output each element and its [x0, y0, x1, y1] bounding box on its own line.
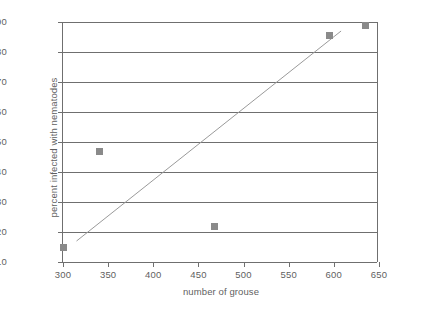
y-tick-label: 90: [0, 17, 7, 27]
x-tick-label: 450: [178, 270, 218, 280]
x-tick-mark: [63, 262, 64, 267]
y-tick-label: 10: [0, 257, 7, 267]
scatter-chart: 102030405060708090 300350400450500550600…: [0, 0, 428, 310]
x-tick-mark: [153, 262, 154, 267]
x-tick-label: 350: [88, 270, 128, 280]
y-tick-label: 30: [0, 197, 7, 207]
y-tick-label: 40: [0, 167, 7, 177]
gridline: [63, 262, 377, 263]
y-tick-label: 70: [0, 77, 7, 87]
data-point: [326, 32, 333, 39]
data-point: [96, 148, 103, 155]
x-axis-title: number of grouse: [63, 286, 379, 297]
x-tick-label: 500: [224, 270, 264, 280]
y-tick-label: 50: [0, 137, 7, 147]
x-tick-label: 550: [269, 270, 309, 280]
x-tick-mark: [108, 262, 109, 267]
y-axis-title: percent infected with nematodes: [48, 48, 59, 248]
x-tick-mark: [379, 262, 380, 267]
y-tick-label: 80: [0, 47, 7, 57]
x-tick-label: 600: [314, 270, 354, 280]
data-point: [60, 244, 67, 251]
data-point: [362, 22, 369, 29]
x-tick-label: 400: [133, 270, 173, 280]
plot-area: 102030405060708090 300350400450500550600…: [62, 22, 378, 262]
x-tick-mark: [244, 262, 245, 267]
x-tick-mark: [334, 262, 335, 267]
y-tick-label: 60: [0, 107, 7, 117]
x-tick-label: 650: [359, 270, 399, 280]
x-tick-mark: [198, 262, 199, 267]
data-point: [211, 223, 218, 230]
trendline: [63, 22, 379, 262]
x-tick-label: 300: [43, 270, 83, 280]
y-tick-label: 20: [0, 227, 7, 237]
x-tick-mark: [289, 262, 290, 267]
